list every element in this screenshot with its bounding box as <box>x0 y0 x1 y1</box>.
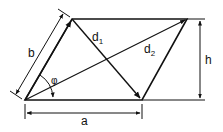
diagonal-d1 <box>72 19 140 98</box>
label-phi: φ <box>51 75 58 86</box>
b-ext-top <box>58 9 70 17</box>
b-ext-bottom <box>10 91 22 99</box>
label-a: a <box>81 114 88 128</box>
label-d1: d1 <box>92 30 104 46</box>
label-d2: d2 <box>144 42 156 58</box>
label-b: b <box>28 46 35 60</box>
parallelogram-diagram: b d1 d2 h a φ <box>0 0 223 132</box>
label-h: h <box>205 53 212 67</box>
